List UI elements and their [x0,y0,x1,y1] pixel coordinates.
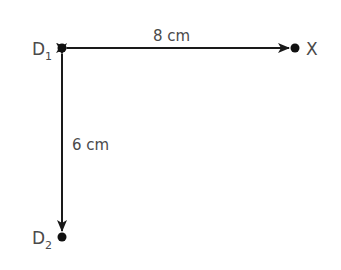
distance-diagram: D1 X D2 8 cm 6 cm [0,0,341,270]
point-d1 [58,44,67,53]
label-d2: D2 [32,228,52,252]
label-x: X [306,39,318,59]
point-x [291,44,300,53]
label-d1: D1 [32,39,52,63]
distance-label-8cm: 8 cm [153,27,190,45]
point-d2 [58,233,67,242]
distance-label-6cm: 6 cm [72,136,109,154]
